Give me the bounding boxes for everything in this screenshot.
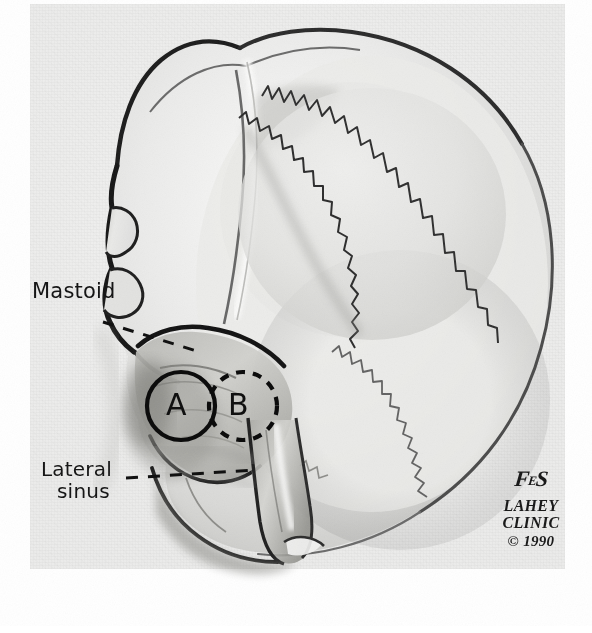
label-mastoid-text: Mastoid [32,279,116,303]
marker-letter-b: B [228,390,249,420]
label-lateral-sinus-line1: Lateral [41,457,112,481]
copyright-notice: © 1990 [492,533,570,550]
label-lateral-sinus-line2: sinus [57,481,112,501]
organization-name: LAHEY CLINIC [492,497,570,532]
label-lateral-sinus: Lateral sinus [41,459,112,501]
artist-monogram: FES [491,468,571,490]
monogram-s: S [535,466,549,491]
label-mastoid: Mastoid [32,281,116,302]
org-line-2: CLINIC [492,514,570,531]
org-line-1: LAHEY [492,497,570,514]
signature-block: FES LAHEY CLINIC © 1990 [492,468,570,550]
marker-letter-a: A [166,390,187,420]
